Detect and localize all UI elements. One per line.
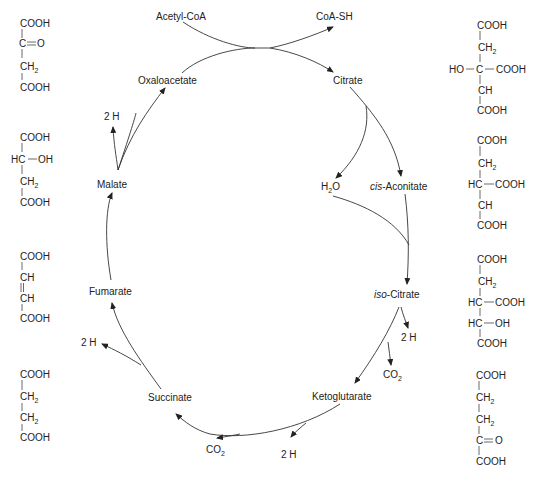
iso-citrate-2h-label: 2 H [401,332,417,343]
malate-2h-arrow [113,127,118,170]
svg-text:CH2: CH2 [20,391,38,404]
iso-citrate-label: iso-Citrate [374,289,420,300]
structure-citrate: COOH CH2 HO C COOH CH COOH [449,20,526,116]
svg-text:HC: HC [11,154,25,165]
svg-text:CH2: CH2 [476,392,494,405]
coa-sh-label: CoA-SH [316,11,353,22]
citric-acid-cycle-diagram: Acetyl-CoA CoA-SH Oxaloacetate Citrate c… [0,0,539,479]
co2-release-arrow-1 [388,342,391,365]
ketoglutarate-2h-label: 2 H [281,449,297,460]
malate-to-oxaloacetate-arrow [118,88,165,170]
svg-text:CH: CH [20,293,34,304]
svg-text:COOH: COOH [495,297,525,308]
svg-text:CH: CH [478,85,492,96]
svg-text:COOH: COOH [20,132,50,143]
structure-iso-citrate: COOH CH2 HC COOH HC OH COOH [468,254,525,349]
svg-text:C: C [476,64,483,75]
cycle-labels: Acetyl-CoA CoA-SH Oxaloacetate Citrate c… [81,11,428,460]
svg-text:COOH: COOH [496,64,526,75]
svg-text:COOH: COOH [20,251,50,262]
svg-text:COOH: COOH [476,456,506,467]
acetyl-coa-label: Acetyl-CoA [156,11,206,22]
svg-text:CH2: CH2 [20,176,38,189]
malate-2h-label: 2 H [104,111,120,122]
svg-text:O: O [37,38,45,49]
svg-text:HC: HC [468,297,482,308]
coa-sh-arrow [270,27,333,48]
svg-text:OH: OH [495,318,510,329]
svg-text:COOH: COOH [20,369,50,380]
svg-text:COOH: COOH [477,254,507,265]
ketoglutarate-to-succinate-arrow [176,404,340,436]
svg-text:CH: CH [20,272,34,283]
structure-cis-aconitate: COOH CH2 HC COOH CH COOH [468,135,525,231]
svg-text:COOH: COOH [20,197,50,208]
svg-text:CH2: CH2 [20,61,38,74]
succinate-label: Succinate [148,392,192,403]
svg-text:COOH: COOH [477,105,507,116]
co2-label-2: CO2 [206,444,225,457]
svg-text:COOH: COOH [20,432,50,443]
svg-text:COOH: COOH [477,20,507,31]
svg-text:COOH: COOH [20,313,50,324]
svg-text:CH2: CH2 [478,158,496,171]
oxaloacetate-merge-arrow [182,48,255,73]
succinate-2h-arrow [102,344,141,365]
structure-malate: COOH HC OH CH2 COOH [11,132,53,208]
svg-text:COOH: COOH [476,370,506,381]
cis-aconitate-label: cis-Aconitate [370,181,428,192]
malate-label: Malate [97,179,127,190]
fumarate-to-malate-arrow [107,193,112,280]
water-uptake-line [333,196,409,245]
structure-oxaloacetate: COOH C O CH2 COOH [19,18,50,93]
svg-text:CH2: CH2 [476,414,494,427]
svg-text:O: O [495,435,503,446]
citrate-to-cis-aconitate-arrow [350,87,401,176]
svg-text:HC: HC [468,179,482,190]
oxaloacetate-label: Oxaloacetate [138,75,197,86]
ketoglutarate-2h-arrow [291,423,306,437]
water-release-arrow [336,106,367,178]
water-label: H2O [321,181,340,194]
svg-text:COOH: COOH [477,135,507,146]
svg-text:HC: HC [468,318,482,329]
citrate-label: Citrate [333,75,363,86]
svg-text:C: C [476,435,483,446]
iso-citrate-2h-arrow [401,307,408,328]
succinate-2h-label: 2 H [81,337,97,348]
svg-text:COOH: COOH [477,220,507,231]
succinate-to-fumarate-arrow [112,303,161,389]
svg-text:COOH: COOH [20,82,50,93]
svg-text:HO: HO [449,64,464,75]
svg-text:COOH: COOH [20,18,50,29]
svg-text:COOH: COOH [495,179,525,190]
ketoglutarate-label: Ketoglutarate [312,391,372,402]
svg-text:CH: CH [478,200,492,211]
svg-text:C: C [19,38,26,49]
svg-text:OH: OH [38,154,53,165]
svg-text:CH2: CH2 [478,276,496,289]
structure-succinate: COOH CH2 CH2 COOH [20,369,50,443]
svg-text:CH2: CH2 [20,412,38,425]
structure-fumarate: COOH CH CH COOH [20,251,50,324]
svg-text:COOH: COOH [477,338,507,349]
structure-ketoglutarate: COOH CH2 CH2 C O COOH [476,370,506,467]
svg-text:CH2: CH2 [478,42,496,55]
co2-label-1: CO2 [383,369,402,382]
fumarate-label: Fumarate [89,286,132,297]
acetyl-coa-arrow [183,22,270,48]
citrate-arrow [270,48,333,72]
